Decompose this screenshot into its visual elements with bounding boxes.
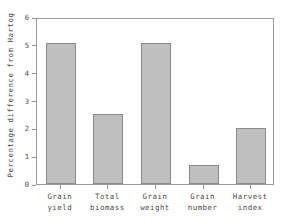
x-axis-tick-label-line: number <box>179 203 227 214</box>
y-axis-tick: 3 <box>0 97 36 107</box>
x-axis-tick-label-line: Total <box>84 192 132 203</box>
y-axis-tick-label: 3 <box>25 97 29 107</box>
bar <box>236 128 266 184</box>
x-axis-tick-mark <box>250 185 251 189</box>
x-axis-tick-label-line: Grain <box>131 192 179 203</box>
x-axis-tick-label-line: yield <box>36 203 84 214</box>
y-axis-tick-label: 5 <box>25 41 29 51</box>
y-axis-tick: 4 <box>0 69 36 79</box>
bar-chart: Percentage difference from Hartog 012345… <box>0 0 289 224</box>
bar <box>141 43 171 184</box>
y-axis-tick: 5 <box>0 41 36 51</box>
y-axis-tick-label: 6 <box>25 13 29 23</box>
y-axis-tick-label: 1 <box>25 152 29 162</box>
x-axis-tick-label-line: weight <box>131 203 179 214</box>
bar <box>46 43 76 184</box>
y-axis-tick: 1 <box>0 152 36 162</box>
x-axis-tick-label: Grainnumber <box>179 192 227 213</box>
x-axis-tick-mark <box>60 185 61 189</box>
x-axis-tick-label: Grainweight <box>131 192 179 213</box>
x-axis-tick-label-line: biomass <box>84 203 132 214</box>
y-axis-tick: 0 <box>0 180 36 190</box>
y-axis-tick-label: 4 <box>25 69 29 79</box>
plot-area <box>36 18 274 185</box>
x-axis-tick-mark <box>155 185 156 189</box>
x-axis-tick-mark <box>203 185 204 189</box>
x-axis-tick-label-line: Grain <box>179 192 227 203</box>
bar <box>93 114 123 184</box>
y-axis-tick: 6 <box>0 13 36 23</box>
y-axis-tick: 2 <box>0 124 36 134</box>
x-axis-tick-label-line: index <box>226 203 274 214</box>
x-axis-tick-label: Totalbiomass <box>84 192 132 213</box>
x-axis-tick-label: Grainyield <box>36 192 84 213</box>
y-axis-tick-label: 2 <box>25 124 29 134</box>
x-axis-tick-label-line: Grain <box>36 192 84 203</box>
x-axis-tick-label-line: Harvest <box>226 192 274 203</box>
y-axis-tick-label: 0 <box>25 180 29 190</box>
x-axis-tick-label: Harvestindex <box>226 192 274 213</box>
x-axis-tick-mark <box>107 185 108 189</box>
bar <box>189 165 219 184</box>
